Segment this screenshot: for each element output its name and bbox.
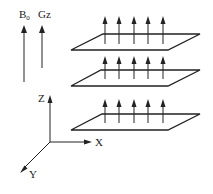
- field-arrows: [103, 16, 166, 44]
- x-axis-label: X: [95, 136, 103, 148]
- y-axis: [24, 142, 50, 168]
- coordinate-axes: [20, 95, 92, 173]
- gz-gradient-arrow: [39, 25, 45, 68]
- field-arrows: [103, 56, 166, 79]
- bottom-slice-plane: [71, 99, 200, 130]
- gz-label: Gz: [38, 8, 51, 20]
- b0-label: B0: [19, 8, 30, 22]
- top-slice-plane: [71, 16, 200, 50]
- b0-field-arrow: [21, 25, 27, 82]
- y-axis-label: Y: [29, 168, 37, 180]
- middle-slice-plane: [71, 56, 200, 86]
- diagram-canvas: B0 Gz: [0, 0, 213, 194]
- z-axis-label: Z: [38, 92, 45, 104]
- field-arrows: [103, 99, 166, 123]
